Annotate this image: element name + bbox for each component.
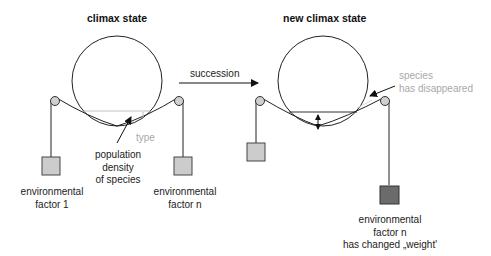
label-line: of species: [88, 174, 148, 187]
weight-factor-n-changed: [380, 186, 399, 204]
label-line: factor n: [150, 199, 220, 212]
label-line: factor 1: [17, 199, 87, 212]
succession-label: succession: [190, 68, 239, 81]
disappeared-pointer-arrow: [370, 86, 395, 96]
weight-factor-n: [174, 157, 192, 175]
weight-factor-1: [247, 143, 265, 161]
weight-factor-1: [42, 157, 60, 175]
label-line: environmental: [335, 214, 445, 227]
species-disappeared-label: species has disappeared: [399, 70, 473, 95]
pointer-arrow: [117, 117, 131, 143]
pulley-left: [51, 97, 60, 106]
label-line: population: [88, 149, 148, 162]
species-circle: [72, 36, 162, 126]
factor-1-label: environmental factor 1: [17, 186, 87, 211]
right-system: [247, 36, 399, 204]
label-line: environmental: [17, 186, 87, 199]
type-label: type: [136, 132, 155, 145]
label-line: factor n: [335, 227, 445, 240]
pulley-right: [175, 97, 184, 106]
factor-n-label: environmental factor n: [150, 186, 220, 211]
label-line: environmental: [150, 186, 220, 199]
pulley-left: [256, 97, 265, 106]
label-line: species: [399, 70, 473, 83]
right-title: new climax state: [283, 12, 366, 25]
pulley-right: [381, 97, 390, 106]
factor-n-changed-label: environmental factor n has changed „weig…: [335, 214, 445, 252]
left-title: climax state: [87, 12, 147, 25]
label-line: has changed „weight': [335, 239, 445, 252]
label-line: has disappeared: [399, 83, 473, 96]
population-density-label: population density of species: [88, 149, 148, 187]
label-line: density: [88, 162, 148, 175]
